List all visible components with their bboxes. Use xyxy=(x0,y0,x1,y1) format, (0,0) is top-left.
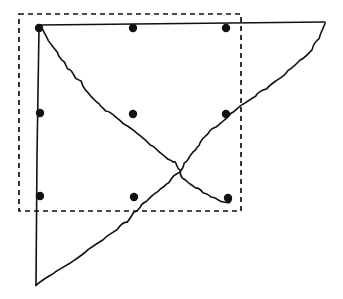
figure-canvas xyxy=(0,0,343,299)
marker-dot xyxy=(224,194,232,202)
marker-dot xyxy=(222,110,230,118)
figure-container xyxy=(0,0,343,299)
marker-dot xyxy=(129,110,137,118)
marker-dot xyxy=(129,24,137,32)
marker-dot xyxy=(130,193,138,201)
marker-dot xyxy=(222,24,230,32)
left-vertical-line xyxy=(36,28,39,285)
marker-dot xyxy=(35,24,43,32)
top-horizontal-line xyxy=(40,22,325,25)
marker-dot xyxy=(36,192,44,200)
marker-dot xyxy=(36,109,44,117)
marker-dot-layer xyxy=(35,24,232,202)
ascending-curve xyxy=(36,23,325,285)
